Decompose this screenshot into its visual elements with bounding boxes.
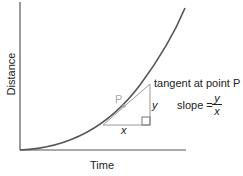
slope-numerator: y — [212, 92, 222, 104]
point-p-marker — [122, 104, 126, 108]
tangent-label: tangent at point P — [154, 77, 240, 89]
slope-denominator: x — [212, 105, 222, 117]
point-p-label: P — [115, 93, 122, 105]
slope-fraction: y x — [212, 92, 222, 117]
triangle-vertical-label: y — [152, 99, 158, 111]
slope-triangle — [103, 84, 150, 125]
slope-label: slope = — [177, 99, 213, 111]
right-angle-marker — [142, 117, 150, 125]
distance-time-diagram: Distance Time tangent at point P P y x s… — [0, 0, 243, 176]
y-axis-label: Distance — [5, 49, 17, 99]
triangle-horizontal-label: x — [121, 124, 127, 136]
x-axis-label: Time — [90, 159, 114, 171]
